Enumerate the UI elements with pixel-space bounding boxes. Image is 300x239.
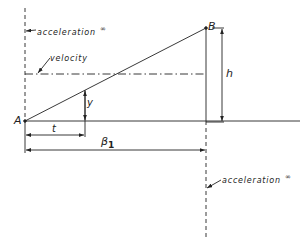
height-label: h (226, 68, 233, 79)
point-a-label: A (14, 115, 22, 126)
point-a-marker (24, 120, 27, 123)
beta-label: β1 (101, 136, 114, 150)
acceleration-bottom-leader (207, 180, 221, 188)
y-offset-label: y (87, 98, 93, 108)
acceleration-top-leader (26, 30, 36, 31)
acceleration-top-text: acceleration (37, 28, 96, 37)
infinity-symbol: ∞ (285, 173, 292, 181)
t-span-label: t (52, 124, 56, 134)
velocity-label: velocity (50, 55, 88, 63)
velocity-text: velocity (50, 54, 88, 63)
acceleration-bottom-label: acceleration∞ (222, 174, 292, 185)
path-line-ab (25, 28, 206, 121)
beta-symbol: β (101, 135, 108, 148)
beta-subscript: 1 (108, 140, 114, 150)
acceleration-bottom-text: acceleration (222, 176, 281, 185)
point-b-label: B (208, 21, 216, 32)
velocity-leader (38, 58, 50, 73)
acceleration-top-label: acceleration∞ (37, 26, 107, 37)
infinity-symbol: ∞ (100, 25, 107, 33)
point-b-marker (205, 27, 208, 30)
